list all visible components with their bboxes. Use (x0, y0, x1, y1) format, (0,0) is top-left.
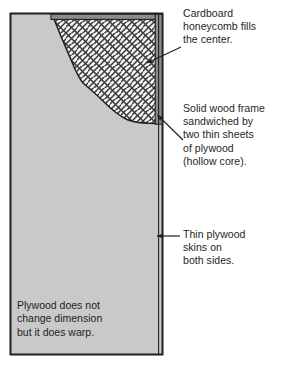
callout-cardboard-honeycomb: Cardboard honeycomb fills the center. (183, 7, 289, 47)
panel-note-plywood-warp: Plywood does not change dimension but it… (17, 299, 157, 339)
callout-solid-wood-frame: Solid wood frame sandwiched by two thin … (183, 102, 289, 168)
callout-thin-plywood-skins: Thin plywood skins on both sides. (183, 228, 287, 268)
solid-wood-frame-rail-top (51, 14, 163, 19)
hollow-core-door-diagram: Cardboard honeycomb fills the center. So… (0, 0, 290, 368)
